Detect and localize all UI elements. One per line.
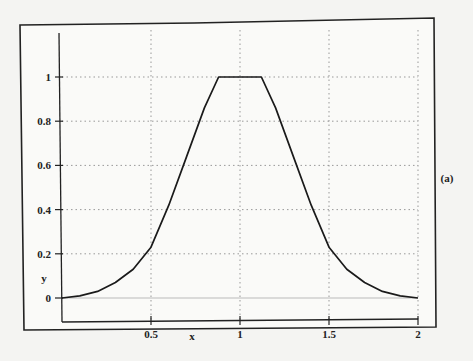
y-tick-label: 0.6 <box>37 159 51 171</box>
x-tick-label: 0.5 <box>144 328 158 340</box>
y-tick-label: 0.4 <box>37 204 51 216</box>
panel-label: (a) <box>441 172 454 185</box>
x-axis-label: x <box>189 330 195 342</box>
y-tick-label: 1 <box>46 71 52 83</box>
y-tick-label: 0.2 <box>37 248 51 260</box>
x-tick-label: 1.5 <box>322 328 336 340</box>
chart: 00.20.40.60.810.511.52xy(a) <box>0 0 473 361</box>
plot-frame <box>20 18 436 330</box>
y-axis-label: y <box>41 272 47 284</box>
x-tick-label: 1 <box>237 328 243 340</box>
x-tick-label: 2 <box>415 328 421 340</box>
y-tick-label: 0 <box>46 292 52 304</box>
y-tick-label: 0.8 <box>37 115 51 127</box>
